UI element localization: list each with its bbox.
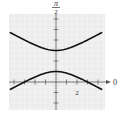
- polar-hyperbola-chart: π 2 0 2: [0, 0, 120, 118]
- grid-background: [9, 14, 105, 110]
- polar-axis-label: 0: [113, 78, 117, 87]
- tick-label-2: 2: [75, 89, 79, 97]
- arrow-right-icon: [106, 80, 111, 84]
- vertical-axis-label: π 2: [52, 0, 60, 16]
- pi-label: π: [54, 0, 59, 8]
- two-label: 2: [54, 8, 58, 16]
